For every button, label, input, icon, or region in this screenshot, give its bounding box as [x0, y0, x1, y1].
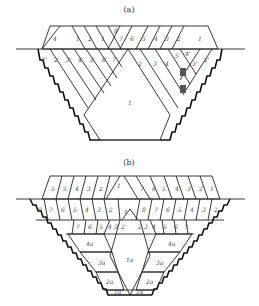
- svg-text:3: 3: [153, 60, 157, 67]
- svg-text:4: 4: [174, 185, 179, 192]
- svg-text:4a: 4a: [85, 240, 94, 247]
- svg-text:5: 5: [162, 185, 166, 192]
- svg-text:7: 7: [119, 35, 123, 42]
- svg-text:3a: 3a: [156, 259, 164, 266]
- svg-text:5: 5: [99, 223, 103, 230]
- svg-text:2a: 2a: [105, 278, 114, 285]
- svg-text:5': 5': [90, 56, 96, 63]
- trench-wall-right-b: [152, 199, 230, 295]
- svg-text:5: 5: [163, 223, 167, 230]
- svg-text:3: 3: [87, 185, 91, 192]
- svg-text:4': 4': [77, 56, 84, 63]
- svg-text:4: 4: [74, 185, 79, 192]
- svg-text:7: 7: [154, 206, 158, 213]
- svg-text:3: 3: [165, 35, 169, 42]
- svg-text:4: 4: [151, 223, 156, 230]
- svg-text:1: 1: [124, 208, 128, 215]
- svg-text:2': 2': [203, 56, 210, 63]
- svg-text:1a: 1a: [114, 288, 122, 295]
- svg-text:3': 3': [66, 56, 72, 63]
- svg-text:2a: 2a: [145, 278, 154, 285]
- svg-text:5: 5: [51, 185, 55, 192]
- svg-text:1: 1: [76, 35, 80, 42]
- middle-row-dividers-b: [44, 199, 212, 220]
- svg-text:4: 4: [52, 35, 57, 42]
- svg-text:3: 3: [202, 206, 206, 213]
- svg-text:4a: 4a: [167, 240, 176, 247]
- svg-text:3: 3: [114, 223, 118, 230]
- svg-text:4: 4: [153, 35, 158, 42]
- svg-text:5: 5: [142, 35, 146, 42]
- svg-text:5: 5: [73, 206, 77, 213]
- svg-text:8: 8: [114, 27, 118, 34]
- svg-text:6: 6: [174, 223, 178, 230]
- svg-text:3: 3: [97, 206, 101, 213]
- svg-text:5: 5: [175, 52, 179, 59]
- svg-text:7: 7: [49, 206, 53, 213]
- svg-text:1a: 1a: [136, 288, 144, 295]
- diagram-canvas: (a): [0, 0, 259, 306]
- svg-text:2: 2: [198, 185, 203, 192]
- svg-text:3: 3: [187, 185, 191, 192]
- svg-text:4: 4: [107, 223, 112, 230]
- svg-text:6: 6: [88, 223, 92, 230]
- svg-text:5: 5: [63, 185, 67, 192]
- svg-text:7: 7: [76, 223, 80, 230]
- svg-text:1: 1: [117, 182, 121, 189]
- center-core-a: [84, 49, 170, 140]
- svg-text:8: 8: [38, 206, 42, 213]
- svg-text:6: 6: [61, 206, 65, 213]
- hatched-block-a2: [180, 85, 186, 93]
- figure-a: (a): [16, 5, 245, 140]
- hatched-block-a1: [180, 68, 186, 76]
- svg-text:2: 2: [108, 206, 113, 213]
- svg-text:2: 2: [87, 35, 92, 42]
- svg-text:2': 2': [53, 56, 60, 63]
- svg-text:6: 6: [130, 35, 134, 42]
- svg-text:7': 7': [112, 56, 118, 63]
- svg-text:6: 6: [166, 206, 170, 213]
- svg-text:6: 6: [152, 185, 156, 192]
- labels-a: 4 1 2 1 8 7 6 5 4 3 2 1 1' 2' 3' 4' 5' 6…: [42, 27, 210, 106]
- svg-text:2: 2: [120, 223, 125, 230]
- svg-text:4: 4: [84, 206, 89, 213]
- svg-text:4: 4: [164, 60, 169, 67]
- figure-b: (b): [16, 158, 245, 295]
- svg-text:2: 2: [98, 185, 103, 192]
- svg-text:1a: 1a: [126, 256, 134, 263]
- svg-text:2: 2: [137, 223, 142, 230]
- svg-text:2: 2: [137, 60, 142, 67]
- svg-text:4': 4': [184, 50, 191, 57]
- svg-text:5: 5: [178, 206, 182, 213]
- svg-text:2: 2: [213, 206, 218, 213]
- svg-text:6': 6': [102, 56, 108, 63]
- svg-text:7: 7: [184, 223, 188, 230]
- figure-a-caption: (a): [123, 5, 134, 14]
- svg-text:7: 7: [140, 185, 144, 192]
- svg-text:3: 3: [144, 223, 148, 230]
- svg-text:3a: 3a: [98, 259, 106, 266]
- svg-text:1: 1: [198, 35, 202, 42]
- svg-text:8: 8: [142, 206, 146, 213]
- svg-text:4: 4: [189, 206, 194, 213]
- svg-text:2: 2: [176, 35, 181, 42]
- svg-text:1': 1': [42, 56, 48, 63]
- svg-text:1: 1: [210, 185, 214, 192]
- figure-b-caption: (b): [123, 158, 134, 167]
- svg-text:1: 1: [128, 99, 132, 106]
- svg-text:1: 1: [101, 35, 105, 42]
- svg-text:3': 3': [192, 60, 198, 67]
